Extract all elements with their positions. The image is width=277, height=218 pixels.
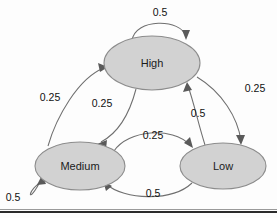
edge-label-high-medium: 0.25	[92, 97, 113, 109]
edge-label-medium-high: 0.25	[40, 91, 61, 103]
diagram-canvas: High Medium Low 0.5 0.25 0.25 0.25 0.5 0…	[0, 0, 277, 218]
edge-label-medium-medium: 0.5	[6, 191, 21, 203]
node-medium[interactable]: Medium	[35, 142, 125, 190]
edge-high-low-arrowhead	[236, 135, 245, 145]
edge-label-low-medium: 0.5	[146, 187, 161, 199]
edge-label-high-low: 0.25	[245, 82, 266, 94]
node-high[interactable]: High	[104, 36, 200, 90]
edge-label-medium-low: 0.25	[143, 129, 164, 141]
node-low[interactable]: Low	[180, 143, 266, 189]
node-medium-label: Medium	[60, 160, 99, 172]
footer-rule-thin	[0, 209, 277, 210]
footer-rule	[0, 211, 277, 213]
node-low-label: Low	[213, 160, 233, 172]
edge-medium-low-arrowhead	[184, 137, 193, 148]
edge-label-low-high: 0.5	[191, 107, 206, 119]
edge-high-high-arrowhead	[182, 30, 190, 40]
state-diagram: High Medium Low 0.5 0.25 0.25 0.25 0.5 0…	[0, 0, 277, 218]
edge-label-high-high: 0.5	[153, 6, 168, 18]
node-high-label: High	[141, 57, 164, 69]
